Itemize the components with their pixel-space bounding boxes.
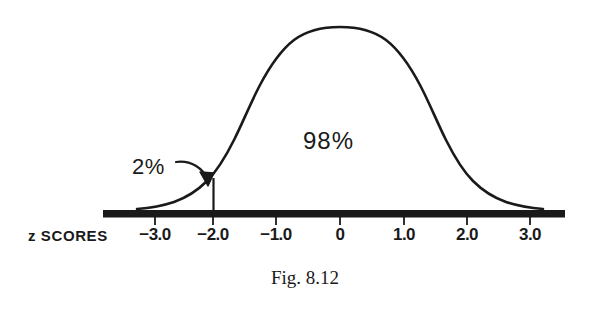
tick-label-minus-3: −3.0 xyxy=(139,226,171,243)
tick-label-minus-1: −1.0 xyxy=(260,226,292,243)
tick-label-plus-1: 1.0 xyxy=(393,226,415,243)
body-percent-label: 98% xyxy=(303,129,354,153)
figure-normal-distribution: 2% 98% z SCORES −3.0 −2.0 −1.0 0 1.0 2.0… xyxy=(0,0,610,309)
tick-label-zero: 0 xyxy=(336,226,345,243)
axis-baseline xyxy=(103,210,565,218)
bell-curve-path xyxy=(137,27,543,209)
tick-label-plus-3: 3.0 xyxy=(519,226,541,243)
axis-caption-z-scores: z SCORES xyxy=(28,228,108,243)
tick-label-minus-2: −2.0 xyxy=(197,226,229,243)
tail-percent-label: 2% xyxy=(132,156,165,178)
normal-curve-drawing xyxy=(0,0,610,309)
tick-label-plus-2: 2.0 xyxy=(456,226,478,243)
figure-caption: Fig. 8.12 xyxy=(271,268,339,287)
annotation-arrow-icon xyxy=(176,162,214,186)
axis-tick-marks xyxy=(155,217,530,225)
